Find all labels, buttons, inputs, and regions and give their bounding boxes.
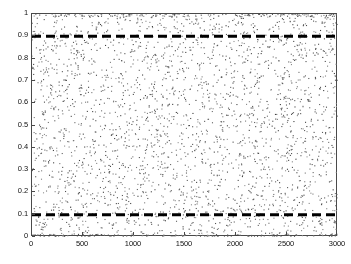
x-tick-label: 1500 (176, 240, 192, 248)
y-tick-mark (32, 58, 35, 59)
y-tick-label: 0.3 (18, 165, 28, 173)
y-tick-mark (32, 35, 35, 36)
x-tick-mark (235, 232, 236, 235)
y-tick-label: 0.7 (18, 76, 28, 84)
y-tick-mark (32, 125, 35, 126)
x-tick-label: 2500 (278, 240, 294, 248)
x-tick-mark (184, 232, 185, 235)
x-tick-mark (31, 232, 32, 235)
y-tick-mark (32, 147, 35, 148)
figure: 00.10.20.30.40.50.60.70.80.91 0500100015… (0, 0, 351, 264)
y-tick-label: 0.1 (18, 210, 28, 218)
y-tick-mark (32, 236, 35, 237)
y-tick-mark (32, 169, 35, 170)
y-tick-label: 0.4 (18, 143, 28, 151)
x-tick-mark (336, 232, 337, 235)
x-tick-label: 0 (29, 240, 33, 248)
y-tick-label: 1 (24, 9, 28, 17)
y-tick-label: 0.2 (18, 188, 28, 196)
x-tick-label: 1000 (125, 240, 141, 248)
x-tick-mark (286, 232, 287, 235)
y-tick-label: 0.9 (18, 32, 28, 40)
y-tick-mark (32, 214, 35, 215)
x-tick-mark (82, 232, 83, 235)
x-tick-label: 500 (76, 240, 88, 248)
y-tick-label: 0 (24, 232, 28, 240)
reference-lines-layer (32, 14, 338, 237)
y-tick-mark (32, 13, 35, 14)
y-tick-label: 0.8 (18, 54, 28, 62)
x-tick-mark (133, 232, 134, 235)
y-tick-label: 0.5 (18, 121, 28, 129)
y-tick-mark (32, 102, 35, 103)
y-tick-mark (32, 80, 35, 81)
y-tick-mark (32, 191, 35, 192)
x-tick-label: 2000 (227, 240, 243, 248)
x-tick-label: 3000 (329, 240, 345, 248)
plot-area (31, 13, 337, 236)
y-tick-label: 0.6 (18, 98, 28, 106)
